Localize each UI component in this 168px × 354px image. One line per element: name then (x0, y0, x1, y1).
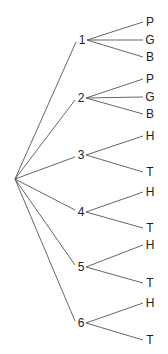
edge-4-to-T (86, 212, 143, 228)
edge-6-to-H (86, 303, 143, 323)
tree-labels: 1PGB2PGB3HT4HT5HT6HT (78, 15, 155, 347)
leaf-2-P: P (146, 72, 154, 86)
leaf-3-T: T (146, 165, 154, 179)
leaf-1-P: P (146, 15, 154, 29)
edge-root-to-4 (15, 179, 75, 210)
leaf-2-G: G (145, 90, 154, 104)
tree-diagram: 1PGB2PGB3HT4HT5HT6HT (0, 0, 168, 354)
leaf-1-G: G (145, 33, 154, 47)
node-3: 3 (78, 148, 85, 162)
edge-3-to-T (86, 155, 143, 172)
edge-2-to-G (86, 97, 143, 98)
edge-root-to-5 (15, 179, 75, 265)
edge-6-to-T (86, 323, 143, 340)
edge-root-to-6 (15, 179, 75, 321)
edge-2-to-P (86, 79, 143, 98)
edge-5-to-T (86, 267, 143, 283)
leaf-6-H: H (146, 296, 155, 310)
node-1: 1 (79, 33, 86, 47)
edge-2-to-B (86, 98, 143, 114)
node-6: 6 (78, 316, 85, 330)
edge-root-to-3 (15, 157, 75, 179)
edge-1-to-B (87, 40, 143, 57)
leaf-6-T: T (146, 333, 154, 347)
leaf-4-H: H (146, 185, 155, 199)
leaf-5-H: H (146, 238, 155, 252)
leaf-4-T: T (146, 221, 154, 235)
node-5: 5 (78, 260, 85, 274)
edge-3-to-H (86, 136, 143, 155)
leaf-1-B: B (146, 50, 154, 64)
leaf-3-H: H (146, 129, 155, 143)
edge-1-to-P (87, 22, 143, 40)
leaf-5-T: T (146, 276, 154, 290)
edge-4-to-H (86, 192, 143, 212)
leaf-2-B: B (146, 107, 154, 121)
node-4: 4 (78, 205, 85, 219)
node-2: 2 (78, 91, 85, 105)
tree-edges (15, 22, 143, 340)
edge-5-to-H (86, 245, 143, 267)
